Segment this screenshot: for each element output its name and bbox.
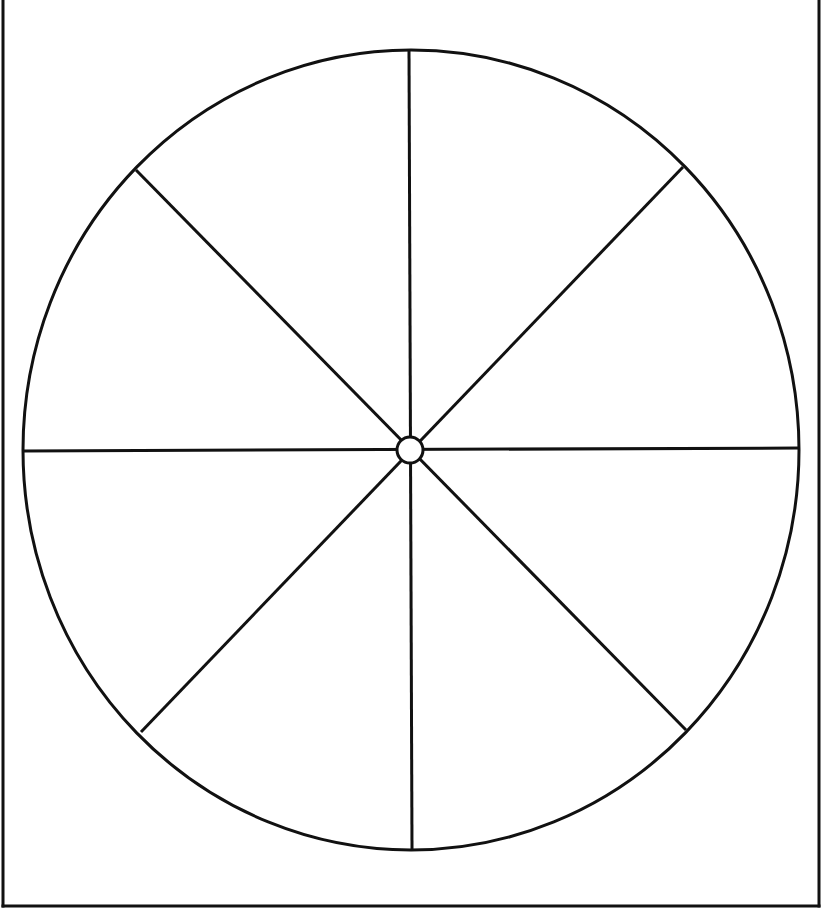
- center-hub: [397, 437, 423, 463]
- segmented-circle-diagram: [0, 0, 821, 911]
- diagram-canvas: [0, 0, 821, 911]
